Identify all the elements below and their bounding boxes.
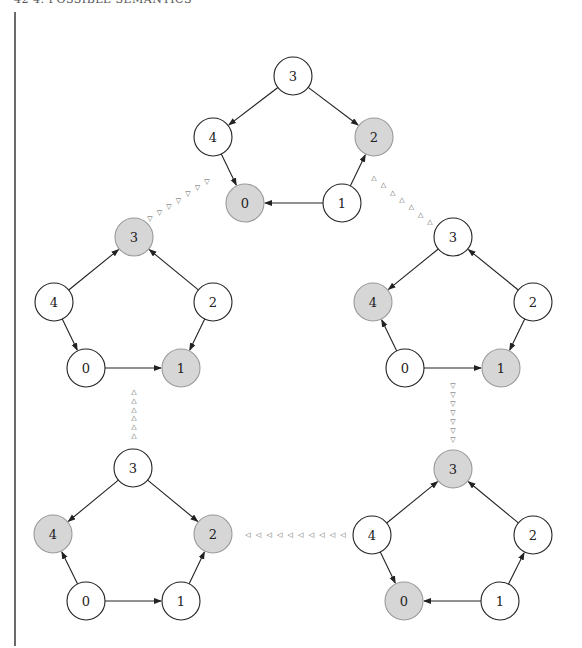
edge-4-to-0-arrow [380, 552, 395, 583]
edge-3-to-2-arrow [148, 480, 198, 521]
node-4: 4 [194, 118, 232, 156]
graph-bottom-right: 34201 [353, 450, 552, 620]
node-0-shaded: 0 [226, 184, 264, 222]
node-label: 4 [49, 527, 57, 542]
node-4: 4 [353, 516, 391, 554]
node-0: 0 [67, 349, 105, 387]
triangle-marker-icon: ▽ [147, 215, 153, 223]
edge-0-to-4-arrow [62, 552, 78, 584]
triangle-marker-icon: ◁ [288, 531, 294, 539]
node-label: 3 [289, 69, 297, 84]
triangle-marker-icon: ◁ [298, 531, 304, 539]
triangle-marker-icon: ▽ [450, 436, 456, 444]
node-2: 2 [194, 283, 232, 321]
edge-2-to-3-arrow [469, 250, 519, 290]
triangle-marker-icon: △ [371, 174, 377, 182]
triangle-marker-icon: △ [399, 196, 405, 204]
edge-2-to-1-arrow [510, 319, 525, 350]
edge-4-to-0-arrow [221, 154, 236, 185]
graph-state-diagram: ▽▽▽▽▽▽▽△△△△△△△△△△△△△▽▽▽▽▽▽▽◁◁◁◁◁◁◁◁◁◁ 34… [0, 0, 582, 648]
triangle-marker-icon: ◁ [256, 531, 262, 539]
transition-connector-top-middle-left: ▽▽▽▽▽▽▽ [147, 178, 210, 223]
node-3: 3 [434, 218, 472, 256]
node-label: 4 [50, 295, 58, 310]
nodes-layer: 3420134201342013420134201 [34, 57, 552, 620]
node-1-shaded: 1 [482, 349, 520, 387]
node-3-shaded: 3 [115, 218, 153, 256]
node-label: 1 [177, 361, 185, 376]
node-label: 3 [449, 462, 457, 477]
node-3-shaded: 3 [434, 450, 472, 488]
triangle-marker-icon: △ [131, 397, 137, 405]
triangle-marker-icon: ▽ [176, 197, 182, 205]
edge-3-to-4-arrow [389, 249, 439, 289]
node-label: 4 [369, 295, 377, 310]
node-label: 0 [82, 594, 90, 609]
triangle-marker-icon: ◁ [309, 531, 315, 539]
node-label: 0 [401, 361, 409, 376]
triangle-marker-icon: ◁ [266, 531, 272, 539]
node-1: 1 [162, 582, 200, 620]
edge-2-to-1-arrow [190, 319, 205, 350]
edge-3-to-4-arrow [68, 480, 118, 521]
triangle-marker-icon: △ [427, 218, 433, 226]
edge-3-to-4-arrow [229, 88, 278, 125]
node-label: 0 [400, 594, 408, 609]
triangle-marker-icon: ▽ [166, 203, 172, 211]
node-label: 3 [130, 230, 138, 245]
node-label: 3 [449, 230, 457, 245]
transition-connector-middle-right-top: △△△△△△△ [371, 174, 433, 226]
node-1: 1 [323, 184, 361, 222]
transition-connector-bottom-right-bottom-left: ◁◁◁◁◁◁◁◁◁◁ [245, 531, 346, 539]
node-label: 3 [129, 461, 137, 476]
edge-1-to-2-arrow [189, 552, 204, 584]
triangle-marker-icon: △ [131, 406, 137, 414]
triangle-marker-icon: △ [390, 189, 396, 197]
triangle-marker-icon: △ [131, 423, 137, 431]
triangle-marker-icon: ◁ [319, 531, 325, 539]
node-1-shaded: 1 [162, 349, 200, 387]
graph-top: 34201 [194, 57, 393, 222]
triangle-marker-icon: ▽ [195, 184, 201, 192]
edge-0-to-4-arrow [382, 320, 397, 351]
triangle-marker-icon: ◁ [245, 531, 251, 539]
edge-3-to-2-arrow [308, 87, 358, 125]
node-0-shaded: 0 [385, 582, 423, 620]
triangle-marker-icon: ▽ [450, 427, 456, 435]
triangle-marker-icon: ◁ [340, 531, 346, 539]
edge-4-to-0-arrow [62, 319, 77, 350]
edge-1-to-2-arrow [350, 155, 365, 186]
edge-4-to-3-arrow [69, 250, 119, 290]
triangle-marker-icon: ▽ [450, 418, 456, 426]
triangle-marker-icon: ▽ [450, 382, 456, 390]
node-label: 1 [338, 196, 346, 211]
node-3: 3 [274, 57, 312, 95]
node-label: 4 [368, 528, 376, 543]
node-4: 4 [35, 283, 73, 321]
edge-2-to-3-arrow [468, 482, 518, 523]
edge-4-to-3-arrow [387, 482, 438, 523]
node-label: 1 [497, 361, 505, 376]
node-3: 3 [114, 449, 152, 487]
triangle-marker-icon: ▽ [204, 178, 210, 186]
node-label: 0 [82, 361, 90, 376]
node-0: 0 [386, 349, 424, 387]
node-label: 2 [529, 528, 537, 543]
node-label: 1 [496, 594, 504, 609]
node-2-shaded: 2 [194, 515, 232, 553]
node-label: 2 [370, 130, 378, 145]
triangle-marker-icon: △ [409, 203, 415, 211]
triangle-marker-icon: ◁ [277, 531, 283, 539]
node-label: 2 [209, 527, 217, 542]
triangle-marker-icon: △ [381, 181, 387, 189]
edges-layer [62, 87, 525, 601]
node-label: 2 [529, 295, 537, 310]
transition-connector-bottom-left-middle-left: △△△△△△ [131, 388, 137, 440]
triangle-marker-icon: ▽ [157, 209, 163, 217]
node-1: 1 [481, 582, 519, 620]
node-label: 2 [209, 295, 217, 310]
node-4-shaded: 4 [354, 283, 392, 321]
edge-2-to-3-arrow [149, 250, 198, 290]
triangle-marker-icon: ▽ [185, 190, 191, 198]
triangle-marker-icon: ▽ [450, 409, 456, 417]
